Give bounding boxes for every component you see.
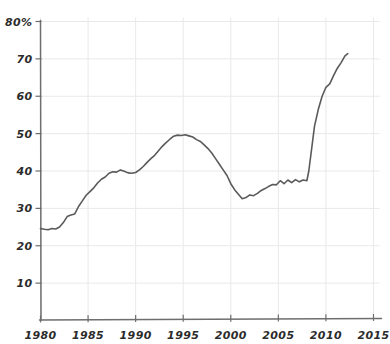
y-tick-label-20: 20 [16, 239, 32, 252]
x-tick-label-2000: 2000 [215, 329, 247, 342]
y-tick-label-80pct: 80% [5, 15, 33, 28]
x-tick-label-2005: 2005 [262, 329, 294, 342]
horizontal-gridlines [41, 22, 380, 284]
y-tick-label-50: 50 [16, 127, 32, 140]
y-tick-label-70: 70 [16, 52, 32, 65]
y-tick-label-10: 10 [16, 277, 32, 290]
x-tick-label-2015: 2015 [357, 329, 389, 342]
y-tick-label-30: 30 [16, 202, 32, 215]
y-tick-label-60: 60 [16, 90, 32, 103]
x-tick-label-1985: 1985 [72, 329, 104, 342]
x-tick-label-1990: 1990 [120, 329, 152, 342]
x-tick-label-1980: 1980 [24, 329, 56, 342]
x-tick-label-1995: 1995 [167, 329, 199, 342]
x-tick-label-2010: 2010 [310, 329, 342, 342]
y-tick-label-40: 40 [16, 165, 32, 178]
vertical-gridlines [41, 18, 374, 321]
data-line-series-1 [41, 54, 348, 230]
axis-ticks [36, 22, 374, 323]
